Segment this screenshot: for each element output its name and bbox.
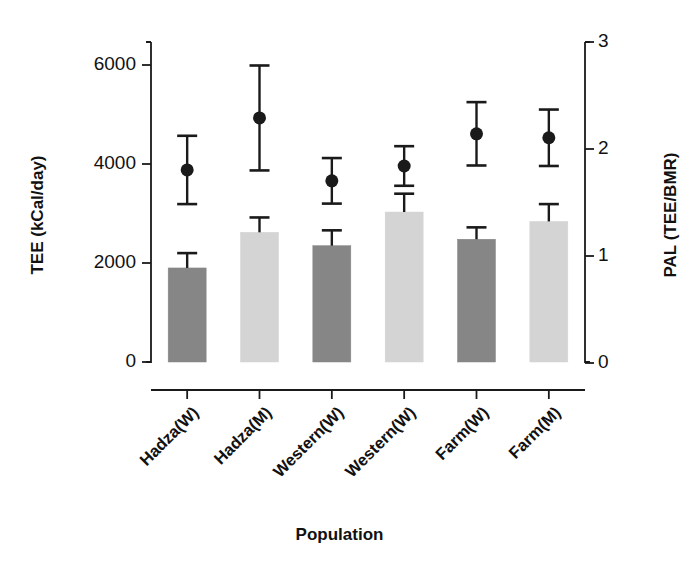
bar (385, 212, 423, 362)
bar (168, 268, 206, 362)
bar-series (168, 212, 568, 362)
point-series (177, 65, 559, 204)
data-point-marker (253, 111, 266, 124)
y-axis-left-tick-label: 2000 (56, 251, 136, 273)
y-axis-right-ticks (585, 42, 594, 363)
bar (241, 232, 279, 362)
data-point-marker (542, 131, 555, 144)
bar (458, 239, 496, 362)
axis-lines (146, 42, 590, 390)
left-axis-spine (146, 42, 151, 362)
bar (530, 221, 568, 362)
data-point-marker (325, 174, 338, 187)
bar-error-bars (177, 194, 559, 268)
right-axis-spine (585, 42, 590, 362)
y-axis-left-tick-label: 4000 (56, 152, 136, 174)
y-axis-right-tick-label: 2 (598, 137, 638, 159)
data-point-marker (181, 163, 194, 176)
y-axis-right-tick-label: 3 (598, 30, 638, 52)
bar (313, 246, 351, 362)
y-axis-right-tick-label: 1 (598, 244, 638, 266)
y-axis-left-tick-label: 0 (56, 350, 136, 372)
y-axis-left-ticks (142, 65, 151, 362)
y-axis-left-tick-label: 6000 (56, 53, 136, 75)
data-point-marker (470, 127, 483, 140)
data-point-marker (398, 159, 411, 172)
y-axis-right-tick-label: 0 (598, 351, 638, 373)
x-axis-ticks (187, 390, 549, 399)
